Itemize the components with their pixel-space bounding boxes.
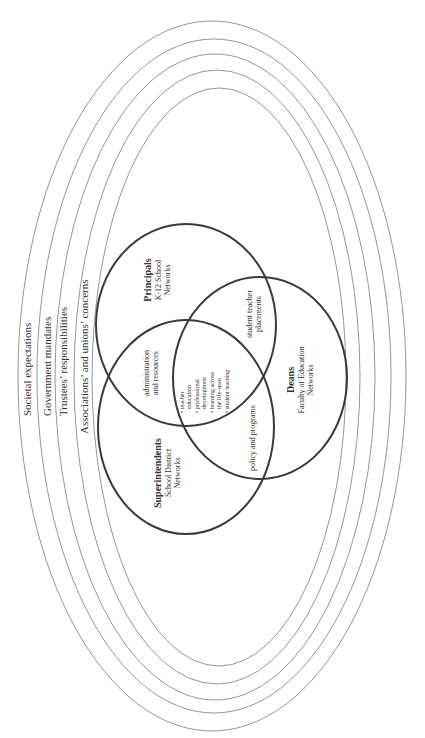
superintendents-sub1: School District — [164, 428, 173, 518]
overlap-sd-line1: policy and programs — [248, 398, 257, 478]
principals-sub2: Networks — [163, 245, 172, 315]
overlap-principals-deans: student teacher placements — [245, 278, 263, 350]
center-item: • professional — [193, 370, 200, 413]
circle-label-superintendents: Superintendents School District Networks — [152, 428, 182, 518]
overlap-ps-line1: administration — [142, 338, 151, 408]
deans-sub2: Networks — [306, 335, 315, 425]
principals-title: Principals — [142, 245, 154, 315]
center-item: • learning across — [208, 370, 215, 413]
center-item: • teacher — [178, 370, 185, 413]
center-item: education — [185, 370, 192, 413]
overlap-pd-line1: student teacher — [245, 278, 254, 350]
center-item: • student learning — [223, 370, 230, 413]
ring-label-associations-unions-concerns: Associations’ and unions’ concerns — [78, 280, 91, 434]
deans-title: Deans — [285, 335, 297, 425]
center-overlap-list: • teacher education • professional devel… — [178, 370, 230, 413]
overlap-pd-line2: placements — [254, 278, 263, 350]
center-item: the life-span — [215, 370, 222, 413]
superintendents-title: Superintendents — [152, 428, 164, 518]
ring-label-societal-expectations: Societal expectations — [21, 323, 34, 416]
overlap-ps-line2: and resources — [151, 338, 160, 408]
circle-label-deans: Deans Faculty of Education Networks — [285, 335, 315, 425]
deans-sub1: Faculty of Education — [297, 335, 306, 425]
overlap-principals-superintendents: administration and resources — [142, 338, 160, 408]
superintendents-sub2: Networks — [173, 428, 182, 518]
ring-label-trustees-responsibilities: Trustees’ responsibilities — [57, 307, 70, 416]
overlap-superintendents-deans: policy and programs — [248, 398, 257, 478]
circle-label-principals: Principals K-12 School Networks — [142, 245, 172, 315]
principals-sub1: K-12 School — [154, 245, 163, 315]
ring-label-government-mandates: Government mandates — [41, 317, 54, 416]
center-item: development — [200, 370, 207, 413]
